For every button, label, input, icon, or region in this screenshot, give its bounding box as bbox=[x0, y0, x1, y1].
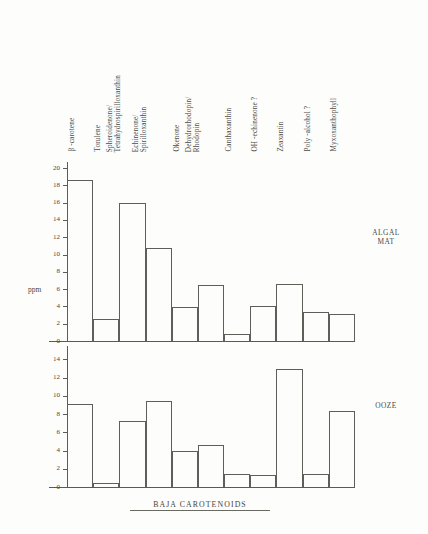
bar bbox=[172, 307, 198, 341]
category-label-5: Dehydrorhodopin/Rhodopin bbox=[185, 97, 200, 153]
bar bbox=[224, 474, 250, 487]
bar bbox=[329, 314, 355, 341]
category-label-line1: Dehydrorhodopin/ bbox=[184, 97, 192, 153]
bar bbox=[250, 475, 276, 487]
y-tick-label: 8 bbox=[37, 411, 60, 418]
category-labels-group: β -caroteneToruleneSpheroidenone/Tetrahy… bbox=[0, 0, 428, 152]
y-tick bbox=[63, 359, 67, 360]
category-label-4: Okenone bbox=[174, 125, 182, 152]
panel-label-line2: MAT bbox=[377, 237, 394, 246]
y-tick-label: 18 bbox=[37, 182, 60, 189]
bar bbox=[303, 312, 329, 341]
y-tick-label: 12 bbox=[37, 234, 60, 241]
bar bbox=[67, 404, 93, 487]
bar bbox=[198, 445, 224, 487]
bar bbox=[303, 474, 329, 487]
category-label-line1: β -carotene bbox=[68, 118, 76, 152]
panel-label-algal-mat: ALGAL MAT bbox=[358, 228, 414, 246]
bar bbox=[93, 319, 119, 341]
bar bbox=[146, 401, 172, 487]
category-label-line1: Okenone bbox=[173, 125, 181, 152]
category-label-line1: Torulene bbox=[94, 125, 102, 152]
category-label-line1: Spheroidenone/ bbox=[106, 105, 114, 152]
y-tick-label: 2 bbox=[37, 320, 60, 327]
y-tick bbox=[63, 396, 67, 397]
category-label-9: Poly -alcohol ? bbox=[305, 106, 313, 152]
y-tick-label: 14 bbox=[37, 216, 60, 223]
y-tick bbox=[63, 487, 67, 488]
bar bbox=[276, 369, 302, 487]
bar bbox=[172, 451, 198, 487]
panel-label-line1: OOZE bbox=[375, 401, 397, 410]
bar bbox=[224, 334, 250, 341]
y-tick bbox=[63, 341, 67, 342]
category-label-line1: Zeaxantin bbox=[278, 122, 286, 152]
y-tick-label: 4 bbox=[37, 447, 60, 454]
figure-baja-carotenoids: β -caroteneToruleneSpheroidenone/Tetrahy… bbox=[0, 0, 428, 534]
bar bbox=[67, 180, 93, 341]
bar bbox=[276, 284, 302, 341]
category-label-10: Myxoxanthophyll bbox=[331, 98, 339, 152]
y-tick-label: 20 bbox=[37, 165, 60, 172]
category-label-line1: OH -echinenone ? bbox=[252, 97, 260, 152]
y-tick-label: 2 bbox=[37, 465, 60, 472]
y-tick-label: 10 bbox=[37, 251, 60, 258]
category-label-line2: Tetrahydrospirilloxanthin bbox=[114, 75, 122, 152]
category-label-1: Torulene bbox=[95, 125, 103, 152]
x-axis bbox=[49, 487, 355, 488]
y-tick-label: 16 bbox=[37, 199, 60, 206]
panel-label-line1: ALGAL bbox=[372, 228, 400, 237]
y-axis-label: ppm bbox=[28, 285, 41, 294]
y-tick-label: 6 bbox=[37, 429, 60, 436]
y-tick-label: 12 bbox=[37, 374, 60, 381]
category-label-line1: Echinenone/ bbox=[132, 114, 140, 152]
y-tick-label: 0 bbox=[37, 338, 60, 345]
bar bbox=[93, 483, 119, 487]
figure-caption: BAJA CAROTENOIDS bbox=[130, 500, 270, 511]
y-tick-label: 0 bbox=[37, 484, 60, 491]
category-label-0: β -carotene bbox=[69, 118, 77, 152]
y-tick-label: 10 bbox=[37, 392, 60, 399]
category-label-8: Zeaxantin bbox=[279, 122, 287, 152]
y-tick-label: 4 bbox=[37, 303, 60, 310]
y-tick-label: 14 bbox=[37, 356, 60, 363]
category-label-line1: Myxoxanthophyll bbox=[330, 98, 338, 152]
bar bbox=[119, 421, 145, 487]
category-label-line1: Poly -alcohol ? bbox=[304, 106, 312, 152]
bar bbox=[198, 285, 224, 341]
category-label-2: Spheroidenone/Tetrahydrospirilloxanthin bbox=[107, 75, 122, 152]
category-label-line1: Canthaxanthin bbox=[225, 108, 233, 152]
category-label-line2: Spirilloxanthin bbox=[141, 107, 149, 152]
x-axis bbox=[49, 341, 355, 342]
bar bbox=[119, 203, 145, 341]
bar bbox=[146, 248, 172, 341]
panel-label-ooze: OOZE bbox=[358, 401, 414, 410]
y-tick bbox=[63, 378, 67, 379]
y-tick-label: 8 bbox=[37, 268, 60, 275]
category-label-6: Canthaxanthin bbox=[226, 108, 234, 152]
bar bbox=[329, 411, 355, 487]
category-label-line2: Rhodopin bbox=[193, 97, 201, 153]
category-label-3: Echinenone/Spirilloxanthin bbox=[133, 107, 148, 152]
y-tick bbox=[63, 168, 67, 169]
bar bbox=[250, 306, 276, 341]
category-label-7: OH -echinenone ? bbox=[253, 97, 261, 152]
